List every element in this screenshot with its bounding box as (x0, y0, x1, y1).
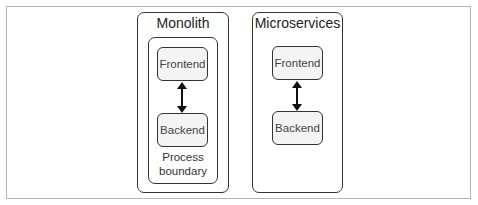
boundary-label-line1: Process (148, 150, 218, 164)
monolith-frontend-label: Frontend (159, 58, 205, 70)
monolith-backend-label: Backend (160, 124, 205, 136)
bidirectional-arrow-icon (176, 82, 188, 113)
microservices-frontend-node: Frontend (272, 46, 323, 80)
microservices-backend-label: Backend (275, 122, 320, 134)
microservices-frontend-label: Frontend (274, 57, 320, 69)
bidirectional-arrow-icon (291, 81, 303, 111)
boundary-label-line2: boundary (148, 164, 218, 178)
monolith-frontend-node: Frontend (157, 47, 208, 81)
process-boundary-label: Process boundary (148, 150, 218, 178)
monolith-title: Monolith (138, 15, 228, 31)
monolith-backend-node: Backend (157, 113, 208, 147)
microservices-backend-node: Backend (272, 111, 323, 145)
diagram-frame (6, 6, 471, 199)
microservices-title: Microservices (253, 15, 342, 31)
